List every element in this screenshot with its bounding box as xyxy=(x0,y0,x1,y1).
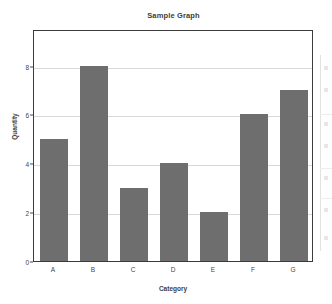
y-tick-label: 6 xyxy=(9,112,29,119)
x-axis-title: Category xyxy=(33,285,313,292)
cropped-text-fragment xyxy=(324,122,328,126)
x-tick-label: A xyxy=(51,266,55,273)
cropped-text-fragment xyxy=(324,176,328,180)
x-axis-tick-labels: ABCDEFG xyxy=(33,266,313,278)
plot-area xyxy=(33,30,313,262)
y-tick-label: 0 xyxy=(9,259,29,266)
cropped-rule-fragment xyxy=(320,168,332,169)
cropped-text-fragment xyxy=(324,66,328,70)
x-tick-label: E xyxy=(211,266,215,273)
bar-E xyxy=(200,212,227,261)
y-tick-label: 8 xyxy=(9,63,29,70)
cropped-rule-fragment xyxy=(320,198,332,199)
cropped-text-fragment xyxy=(324,208,328,212)
x-tick-label: B xyxy=(91,266,95,273)
cropped-text-fragment xyxy=(324,144,328,148)
bar-C xyxy=(120,188,147,261)
cropped-rule-fragment xyxy=(320,114,332,115)
chart-figure: Sample Graph Quantity 02468 ABCDEFG Cate… xyxy=(0,0,332,304)
chart-title: Sample Graph xyxy=(33,11,314,20)
x-tick-label: F xyxy=(251,266,255,273)
cropped-text-fragment xyxy=(324,236,328,240)
bar-F xyxy=(240,114,267,261)
cropped-panel-artifact xyxy=(320,58,332,248)
x-tick-label: G xyxy=(290,266,295,273)
y-tick-label: 4 xyxy=(9,161,29,168)
y-axis-tick-labels: 02468 xyxy=(7,30,29,262)
bar-D xyxy=(160,163,187,261)
bar-A xyxy=(40,139,67,261)
x-tick-label: C xyxy=(131,266,136,273)
bar-series xyxy=(34,31,312,261)
x-tick-label: D xyxy=(171,266,176,273)
y-tick-label: 2 xyxy=(9,210,29,217)
bar-G xyxy=(280,90,307,261)
cropped-text-fragment xyxy=(324,88,328,92)
bar-B xyxy=(80,66,107,261)
